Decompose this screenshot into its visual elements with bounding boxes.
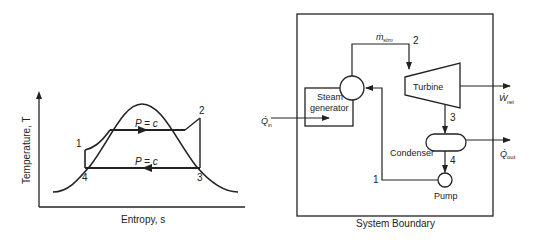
system-diagram: System Boundary Steam generator Q̇ in ṁ … [261,14,516,229]
system-boundary-label: System Boundary [356,218,435,229]
boiler-drum-icon [340,76,364,100]
pump-label: Pump [434,191,458,201]
y-axis-label: Temperature, T [21,116,32,184]
ts-state-1: 1 [76,138,82,149]
state-2-label: 2 [413,35,419,46]
heat-out-label: Q̇ [500,149,507,159]
state-1-label: 1 [373,174,379,185]
ts-state-4: 4 [82,172,88,183]
superheat-line [185,118,200,130]
mass-flow-sub: stm [383,37,393,43]
heat-in-sub: in [268,122,272,128]
rankine-cycle-figure: P = c P = c 1 2 3 4 Temperature, T Entro… [0,0,535,240]
work-net-sub: net [507,99,515,105]
ts-diagram: P = c P = c 1 2 3 4 Temperature, T Entro… [21,91,245,225]
condenser-label: Condenser [390,148,434,158]
feedwater-line [366,88,438,180]
pump-icon [438,173,452,187]
upper-isobar-label: P = c [135,118,158,129]
steam-line [352,44,409,76]
turbine-label: Turbine [413,82,443,92]
state-3-label: 3 [450,112,456,123]
y-axis-arrow-icon [36,91,42,99]
heat-out-sub: out [507,154,516,160]
state-4-label: 4 [450,155,456,166]
ts-state-3: 3 [197,172,203,183]
steam-generator-label-2: generator [310,103,349,113]
x-axis-label: Entropy, s [121,214,165,225]
steam-generator-label-1: Steam [317,92,343,102]
lower-isobar-label: P = c [135,156,158,167]
heat-in-label: Q̇ [261,116,268,126]
ts-state-2: 2 [199,105,205,116]
